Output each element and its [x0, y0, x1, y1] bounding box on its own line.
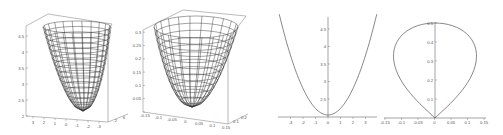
tick-label: 0.05 [447, 120, 456, 125]
tick-label: 0.15 [480, 120, 489, 125]
tick-label: 4.5 [320, 27, 326, 32]
tick-label: 0.4 [427, 40, 433, 45]
tick-label: 0 [433, 120, 436, 125]
tick-label: 0.25 [133, 43, 142, 48]
tick-label: 3 [32, 120, 35, 125]
tick-label: 0.1 [210, 123, 216, 128]
tick-label: 2 [352, 120, 355, 125]
tick-label: 4.5 [18, 34, 24, 39]
tick-label: 3.5 [320, 62, 326, 67]
line-plot-loop: -0.15-0.1-0.0500.050.10.15 0.10.20.30.40… [380, 0, 503, 135]
y-tick-labels: 0.10.2 [233, 115, 247, 124]
tick-label: 2.5 [18, 98, 24, 103]
bounding-box [143, 10, 248, 124]
tick-label: 0.3 [427, 59, 433, 64]
tick-label: 3 [324, 79, 327, 84]
tick-label: -3 [97, 124, 101, 129]
tick-label: -2 [86, 124, 90, 129]
tick-label: 0.05 [195, 121, 204, 126]
tick-label: -1 [75, 123, 79, 128]
y-tick-labels: 0.10.20.30.40.5 [427, 21, 437, 102]
tick-label: 2 [43, 120, 46, 125]
tick-label: 4 [324, 44, 327, 49]
tick-label: 0.2 [135, 56, 141, 61]
x-tick-labels: -0.15-0.1-0.0500.050.10.15 [380, 118, 489, 125]
tick-label: 1 [54, 121, 57, 126]
surface-plot-1: 22.533.544.5 3210-1-2-3 26 [0, 0, 130, 135]
tick-label: 0.1 [135, 83, 141, 88]
z-tick-labels: 22.533.544.5 [18, 34, 28, 119]
tick-label: 0.1 [427, 97, 433, 102]
x-tick-labels: -3-2-10123 [289, 117, 368, 125]
tick-label: 0.3 [135, 30, 141, 35]
tick-label: 2 [115, 118, 118, 123]
y-tick-labels: 2.533.544.5 [320, 27, 330, 102]
tick-label: 2 [22, 114, 25, 119]
tick-label: 6 [123, 115, 126, 120]
tick-label: -2 [301, 120, 305, 125]
x-tick-labels: -0.15-0.1-0.0500.050.10.15 [140, 113, 231, 129]
tick-label: -0.05 [167, 117, 177, 122]
tick-label: 1 [339, 120, 342, 125]
tick-label: -3 [289, 120, 293, 125]
tick-label: 0.2 [241, 115, 247, 120]
tick-label: -0.05 [413, 120, 423, 125]
tick-label: 3 [364, 120, 367, 125]
tick-label: 0.15 [133, 70, 142, 75]
mesh [43, 21, 111, 111]
surface-plot-2: 0.050.10.150.20.250.3 -0.15-0.1-0.0500.0… [128, 0, 260, 135]
tick-label: 0 [184, 119, 187, 124]
tick-label: 0.15 [222, 125, 231, 130]
tick-label: -0.1 [155, 115, 163, 120]
tick-label: 4 [22, 50, 25, 55]
tick-label: 0.5 [427, 21, 433, 26]
line-plot-parabola: -3-2-10123 2.533.544.5 [260, 0, 380, 135]
tick-label: 0 [327, 120, 330, 125]
tick-label: 3 [22, 82, 25, 87]
tick-label: 2.5 [320, 97, 326, 102]
mesh [154, 16, 238, 107]
tick-label: 0.1 [465, 120, 471, 125]
tick-label: 3.5 [18, 66, 24, 71]
tick-label: -0.1 [398, 120, 406, 125]
tick-label: -0.15 [140, 113, 150, 118]
tick-label: 0 [65, 122, 68, 127]
tick-label: -1 [314, 120, 318, 125]
tick-label: 0.05 [133, 96, 142, 101]
x-tick-labels: 3210-1-2-3 [32, 117, 102, 130]
y-tick-labels: 26 [115, 115, 126, 123]
tick-label: 0.1 [233, 119, 239, 124]
tick-label: 0.2 [427, 78, 433, 83]
tick-label: -0.15 [380, 120, 390, 125]
